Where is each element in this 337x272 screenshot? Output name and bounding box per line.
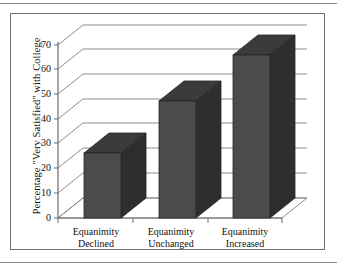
y-tick-label-30: 30 xyxy=(25,137,51,148)
y-tick-label-60: 60 xyxy=(25,63,51,74)
x-category-label-unchanged: Equanimity Unchanged xyxy=(129,226,213,249)
top-divider-rule xyxy=(0,3,337,4)
chart-figure: Percentage "Very Satisfied" with College… xyxy=(0,0,337,272)
x-category-line1: Equanimity xyxy=(54,226,138,238)
y-tick-label-20: 20 xyxy=(25,162,51,173)
x-category-line1: Equanimity xyxy=(129,226,213,238)
x-category-label-increased: Equanimity Increased xyxy=(203,226,287,249)
x-category-line2: Declined xyxy=(54,238,138,250)
y-tick-label-50: 50 xyxy=(25,88,51,99)
bar-equanimity-declined xyxy=(84,133,146,218)
y-tick-label-40: 40 xyxy=(25,113,51,124)
bottom-divider-rule xyxy=(0,262,337,263)
y-tick-label-10: 10 xyxy=(25,187,51,198)
x-category-label-declined: Equanimity Declined xyxy=(54,226,138,249)
bar-equanimity-increased xyxy=(233,35,295,218)
y-tick-label-70: 70 xyxy=(25,39,51,50)
chart-frame: Percentage "Very Satisfied" with College… xyxy=(10,13,325,250)
x-category-line2: Increased xyxy=(203,238,287,250)
chart-canvas xyxy=(11,14,326,251)
x-tick-marks xyxy=(58,218,282,223)
bar-equanimity-unchanged xyxy=(159,81,221,218)
x-category-line2: Unchanged xyxy=(129,238,213,250)
x-category-line1: Equanimity xyxy=(203,226,287,238)
plot-area xyxy=(11,14,326,251)
y-tick-label-0: 0 xyxy=(25,212,51,223)
